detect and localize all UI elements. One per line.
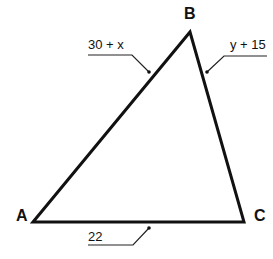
side-label-ac: 22 <box>88 226 151 245</box>
vertex-label-b: B <box>184 5 196 22</box>
side-label-ac-text: 22 <box>88 229 102 244</box>
leader-dot-bc <box>205 70 209 74</box>
vertex-label-a: A <box>16 207 28 224</box>
leader-dot-ab <box>147 70 151 74</box>
triangle-diagram: A B C 30 + x y + 15 22 <box>0 0 273 259</box>
triangle-abc <box>33 32 244 222</box>
vertex-label-c: C <box>254 207 266 224</box>
leader-line-ab <box>88 55 149 72</box>
leader-dot-ac <box>147 226 151 230</box>
side-label-ab-text: 30 + x <box>88 37 124 52</box>
side-label-bc: y + 15 <box>205 37 267 74</box>
leader-line-bc <box>207 56 267 72</box>
side-label-bc-text: y + 15 <box>230 37 266 52</box>
side-label-ab: 30 + x <box>88 37 151 74</box>
